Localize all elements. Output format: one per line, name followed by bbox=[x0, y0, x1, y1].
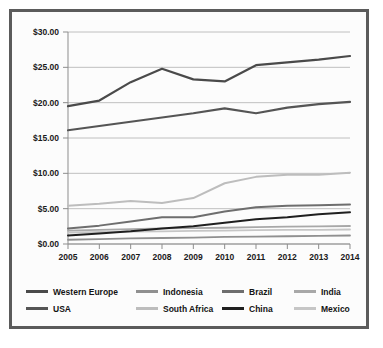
legend-item-indonesia[interactable]: Indonesia bbox=[136, 284, 203, 299]
legend-item-western-europe[interactable]: Western Europe bbox=[26, 284, 118, 299]
y-axis-tick-label: $25.00 bbox=[33, 62, 59, 72]
x-axis-tick-label: 2005 bbox=[59, 252, 78, 262]
legend-label: USA bbox=[53, 304, 71, 314]
y-axis-tick-label: $20.00 bbox=[33, 98, 59, 108]
legend-label: China bbox=[249, 304, 273, 314]
legend-swatch-mexico bbox=[294, 307, 316, 310]
legend-swatch-india bbox=[294, 290, 316, 293]
y-axis-tick-label: $15.00 bbox=[33, 133, 59, 143]
legend-swatch-brazil bbox=[222, 290, 244, 293]
legend-item-usa[interactable]: USA bbox=[26, 301, 71, 316]
legend-item-china[interactable]: China bbox=[222, 301, 273, 316]
legend-swatch-indonesia bbox=[136, 290, 158, 293]
chart-figure: $0.00$5.00$10.00$15.00$20.00$25.00$30.00… bbox=[0, 0, 383, 348]
chart-legend: Western EuropeIndonesiaBrazilIndiaUSASou… bbox=[26, 284, 356, 318]
x-axis-ticks: 2005200620072008200920102011201220132014 bbox=[59, 244, 360, 262]
legend-row: USASouth AfricaChinaMexico bbox=[26, 299, 356, 314]
y-axis-tick-label: $10.00 bbox=[33, 168, 59, 178]
x-axis-tick-label: 2008 bbox=[153, 252, 172, 262]
legend-label: Indonesia bbox=[163, 287, 203, 297]
legend-swatch-china bbox=[222, 307, 244, 310]
line-chart: $0.00$5.00$10.00$15.00$20.00$25.00$30.00… bbox=[12, 12, 366, 326]
x-axis-tick-label: 2014 bbox=[341, 252, 360, 262]
legend-label: Western Europe bbox=[53, 287, 118, 297]
x-axis-tick-label: 2010 bbox=[215, 252, 234, 262]
legend-item-india[interactable]: India bbox=[294, 284, 341, 299]
y-axis-tick-label: $30.00 bbox=[33, 27, 59, 37]
x-axis-tick-label: 2013 bbox=[309, 252, 328, 262]
x-axis-tick-label: 2006 bbox=[90, 252, 109, 262]
legend-label: Brazil bbox=[249, 287, 272, 297]
plot-area-wrapper: $0.00$5.00$10.00$15.00$20.00$25.00$30.00… bbox=[12, 12, 366, 326]
x-axis-tick-label: 2012 bbox=[278, 252, 297, 262]
y-axis-tick-label: $5.00 bbox=[38, 204, 60, 214]
legend-swatch-western-europe bbox=[26, 290, 48, 293]
x-axis-tick-label: 2007 bbox=[121, 252, 140, 262]
legend-label: South Africa bbox=[163, 304, 213, 314]
legend-row: Western EuropeIndonesiaBrazilIndia bbox=[26, 284, 356, 299]
legend-item-mexico[interactable]: Mexico bbox=[294, 301, 350, 316]
legend-swatch-south-africa bbox=[136, 307, 158, 310]
legend-label: India bbox=[321, 287, 341, 297]
x-axis-tick-label: 2009 bbox=[184, 252, 203, 262]
legend-item-south-africa[interactable]: South Africa bbox=[136, 301, 213, 316]
legend-label: Mexico bbox=[321, 304, 350, 314]
chart-frame: $0.00$5.00$10.00$15.00$20.00$25.00$30.00… bbox=[9, 9, 369, 329]
legend-swatch-usa bbox=[26, 307, 48, 310]
y-axis-tick-label: $0.00 bbox=[38, 239, 60, 249]
legend-item-brazil[interactable]: Brazil bbox=[222, 284, 272, 299]
x-axis-tick-label: 2011 bbox=[247, 252, 266, 262]
